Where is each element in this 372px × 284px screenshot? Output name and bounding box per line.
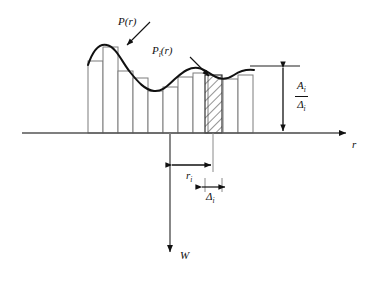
height-denominator: Δi	[295, 97, 308, 114]
bar	[148, 91, 163, 133]
bar	[118, 71, 133, 133]
load-label: W	[180, 250, 189, 261]
histogram-bars	[88, 47, 253, 133]
height-fraction-label: Ai Δi	[295, 79, 308, 114]
p-step-tail: (r)	[161, 44, 173, 56]
bar	[178, 77, 193, 133]
ri-label: ri	[186, 170, 192, 184]
bar	[88, 61, 103, 133]
p-step-base: P	[152, 44, 159, 56]
bar	[238, 75, 253, 133]
r-axis-label: r	[352, 139, 356, 150]
pressure-distribution-figure: P(r) Pi(r) Ai Δi ri Δi W r	[0, 0, 372, 284]
bar	[223, 79, 238, 133]
delta-label: Δi	[206, 191, 215, 205]
p-step-label: Pi(r)	[152, 45, 172, 59]
diagram-canvas	[0, 0, 372, 284]
bar	[103, 47, 118, 133]
bar-hatched	[205, 75, 222, 133]
height-numerator: Ai	[295, 79, 308, 97]
p-curve-label: P(r)	[118, 16, 136, 27]
bar	[133, 78, 148, 133]
bar	[163, 87, 178, 133]
